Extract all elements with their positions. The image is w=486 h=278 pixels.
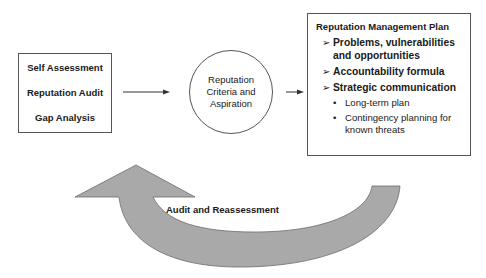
plan-sub-point: • Contingency planning for known threats	[333, 112, 470, 136]
plan-sub-point: • Long-term plan	[333, 97, 470, 109]
dot-bullet-icon: •	[333, 97, 345, 109]
plan-point: ➢ Strategic communication	[322, 81, 470, 94]
audit-reassessment-label: Audit and Reassessment	[166, 204, 279, 215]
chevron-bullet-icon: ➢	[322, 81, 333, 94]
plan-sub-point-text: Contingency planning for known threats	[345, 112, 457, 136]
plan-sub-point-text: Long-term plan	[345, 97, 410, 109]
plan-title: Reputation Management Plan	[316, 21, 470, 32]
self-assessment-label: Self Assessment	[27, 62, 103, 73]
feedback-loop-arrow-icon	[75, 165, 400, 267]
reputation-audit-label: Reputation Audit	[27, 87, 103, 98]
chevron-bullet-icon: ➢	[322, 36, 333, 62]
circle-line-3: Aspiration	[210, 98, 252, 110]
arrow-circle-to-right	[286, 90, 304, 95]
plan-point-text: Problems, vulnerabilities and opportunit…	[333, 36, 465, 62]
gap-analysis-label: Gap Analysis	[35, 112, 95, 123]
dot-bullet-icon: •	[333, 112, 345, 136]
criteria-circle: Reputation Criteria and Aspiration	[189, 50, 273, 134]
plan-point-text: Accountability formula	[333, 65, 445, 78]
circle-line-1: Reputation	[208, 74, 254, 86]
chevron-bullet-icon: ➢	[322, 65, 333, 78]
arrow-left-to-circle	[123, 90, 170, 95]
plan-point: ➢ Accountability formula	[322, 65, 470, 78]
management-plan-box: Reputation Management Plan ➢ Problems, v…	[307, 13, 471, 156]
circle-line-2: Criteria and	[206, 86, 255, 98]
plan-point: ➢ Problems, vulnerabilities and opportun…	[322, 36, 470, 62]
assessment-box: Self Assessment Reputation Audit Gap Ana…	[18, 53, 112, 133]
plan-point-text: Strategic communication	[333, 81, 456, 94]
